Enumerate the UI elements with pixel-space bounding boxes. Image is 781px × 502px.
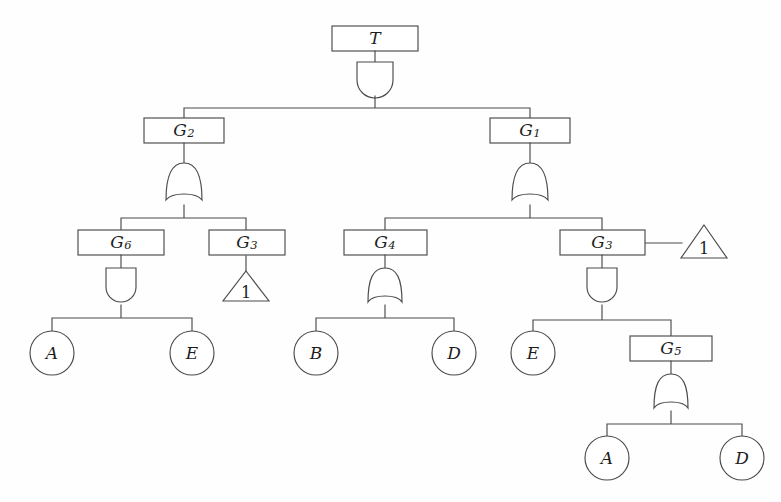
basic-event-label-d-mid: D <box>446 343 461 363</box>
edge-layer <box>52 96 742 436</box>
fault-tree-canvas: T G 2 G 1 G 6 G 3 1 <box>0 0 781 502</box>
basic-event-label-a-right: A <box>599 448 613 468</box>
basic-event-label-b: B <box>309 343 323 363</box>
node-basic-event-d-right[interactable]: D <box>720 436 764 480</box>
edge-g1-to-bus <box>385 205 602 230</box>
gate-label-g3-right-sub: 3 <box>605 238 612 252</box>
gate-label-g3-right: G <box>591 232 605 252</box>
node-gate-g6[interactable]: G 6 <box>78 230 164 302</box>
gate-label-g5-sub: 5 <box>674 344 681 358</box>
node-gate-g3-right[interactable]: G 3 1 <box>560 225 727 302</box>
gate-label-g3-left: G <box>236 232 250 252</box>
transfer-label-right: 1 <box>699 239 709 258</box>
node-basic-event-a-right[interactable]: A <box>585 436 629 480</box>
gate-label-g2: G <box>173 120 187 140</box>
and-gate-g6[interactable] <box>106 268 136 302</box>
node-gate-g5[interactable]: G 5 <box>630 336 712 408</box>
gate-label-g6-sub: 6 <box>124 238 131 252</box>
basic-event-label-a-left: A <box>44 343 58 363</box>
edge-t-to-bus <box>184 96 530 118</box>
gate-label-g4-sub: 4 <box>387 238 395 252</box>
and-gate-g3-right[interactable] <box>587 268 617 302</box>
node-basic-event-e-right[interactable]: E <box>511 331 555 375</box>
gate-label-g5: G <box>660 338 674 358</box>
and-gate-t[interactable] <box>357 62 393 98</box>
node-gate-g3-left[interactable]: G 3 1 <box>209 230 285 302</box>
transfer-label-left: 1 <box>241 283 251 302</box>
edge-g5-to-bus <box>607 411 742 436</box>
gate-label-g3-left-sub: 3 <box>250 238 257 252</box>
node-gate-g2[interactable]: G 2 <box>144 118 224 200</box>
edge-g2-to-bus <box>121 205 246 230</box>
basic-event-label-d-right: D <box>734 448 749 468</box>
edge-g4-to-bus <box>316 305 454 331</box>
gate-label-g6: G <box>110 232 124 252</box>
edge-g6-to-bus <box>52 305 192 331</box>
gate-label-g4: G <box>374 232 388 252</box>
node-gate-g1[interactable]: G 1 <box>490 118 570 200</box>
or-gate-g5[interactable] <box>654 374 688 408</box>
node-basic-event-a-left[interactable]: A <box>30 331 74 375</box>
node-basic-event-d-mid[interactable]: D <box>432 331 476 375</box>
edge-g3right-to-bus <box>533 305 671 336</box>
gate-label-g1: G <box>519 120 533 140</box>
node-basic-event-b[interactable]: B <box>294 331 338 375</box>
gate-label-t: T <box>369 28 382 48</box>
fault-tree-diagram: T G 2 G 1 G 6 G 3 1 <box>0 0 781 502</box>
node-basic-event-e-left[interactable]: E <box>170 331 214 375</box>
or-gate-g2[interactable] <box>166 163 202 200</box>
node-top-event-t[interactable]: T <box>332 26 418 98</box>
or-gate-g4[interactable] <box>368 268 402 302</box>
gate-label-g1-sub: 1 <box>533 126 540 140</box>
gate-label-g2-sub: 2 <box>186 126 194 140</box>
basic-event-label-e-left: E <box>185 343 199 363</box>
basic-event-label-e-right: E <box>526 343 540 363</box>
node-gate-g4[interactable]: G 4 <box>344 230 427 302</box>
or-gate-g1[interactable] <box>512 163 548 200</box>
